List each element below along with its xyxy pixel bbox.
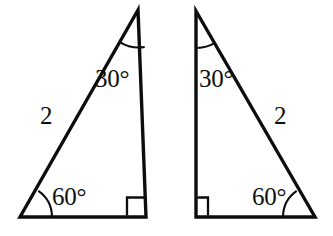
right-apex-angle-arc xyxy=(197,43,214,48)
left-triangle-apex-angle-label: 30° xyxy=(95,66,129,91)
right-triangle-base-angle-label: 60° xyxy=(252,184,286,209)
left-triangle-base-angle-label: 60° xyxy=(52,184,86,209)
left-right-angle-marker xyxy=(127,198,145,216)
right-triangle-apex-angle-label: 30° xyxy=(199,66,233,91)
right-right-angle-marker xyxy=(197,198,208,216)
geometry-figure: 30° 60° 2 30° 60° 2 xyxy=(0,0,333,236)
left-base-angle-arc xyxy=(38,191,52,217)
left-triangle-hypotenuse-label: 2 xyxy=(40,103,53,128)
right-triangle-hypotenuse-label: 2 xyxy=(274,103,287,128)
